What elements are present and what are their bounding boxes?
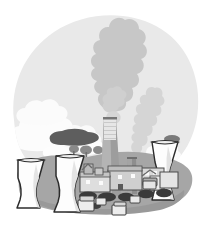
building-far-right xyxy=(160,172,178,188)
crate-1 xyxy=(78,200,94,211)
power-plant-illustration xyxy=(0,0,210,239)
illustration-canvas: Grayscale clip-art of an industrial powe… xyxy=(0,0,210,239)
cooling-tower-center-rim xyxy=(56,155,84,159)
cooling-tower-right-rim xyxy=(152,141,178,145)
building-center-main xyxy=(108,170,142,190)
crate-2 xyxy=(112,205,126,215)
door-a xyxy=(118,184,123,190)
plant-buildings-group xyxy=(80,164,178,192)
crate-4 xyxy=(96,198,106,205)
building-left-box xyxy=(95,168,103,175)
window-b xyxy=(99,181,103,185)
building-left-main xyxy=(80,176,110,192)
smokestack-rim xyxy=(103,117,117,120)
building-center-roof xyxy=(108,166,142,171)
window-c xyxy=(118,175,122,179)
secondary-stack-rim xyxy=(127,157,137,159)
tree-small-c xyxy=(93,146,103,154)
crate-5 xyxy=(130,196,140,203)
tank-5 xyxy=(156,189,172,197)
building-left-upper xyxy=(84,164,93,174)
cooling-tower-left-rim xyxy=(18,159,44,163)
window-d xyxy=(131,174,135,178)
window-a xyxy=(86,180,90,184)
crate-3 xyxy=(143,181,156,189)
crate-1-lid xyxy=(80,196,94,201)
crate-2-lid xyxy=(114,202,126,206)
smokestack-top-band xyxy=(104,118,116,140)
